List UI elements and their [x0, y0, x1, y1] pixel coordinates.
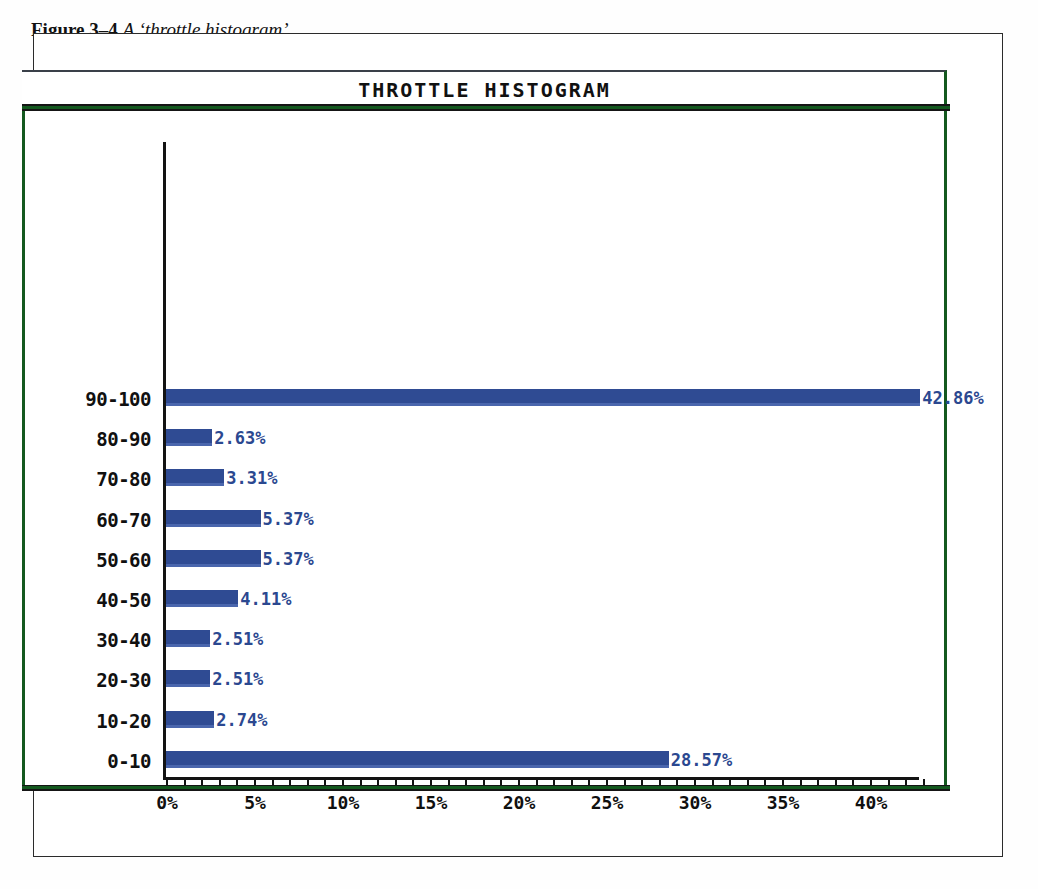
bar-value-label: 2.63% [214, 430, 265, 447]
category-label: 30-40 [1, 631, 151, 650]
bar [166, 670, 210, 687]
bar-highlight [166, 725, 214, 728]
category-label: 40-50 [1, 591, 151, 610]
figure-page: Figure 3–4A ‘throttle histogram’ THROTTL… [0, 0, 1038, 889]
category-label: 70-80 [1, 470, 151, 489]
category-label: 60-70 [1, 511, 151, 530]
bar-value-label: 3.31% [226, 470, 277, 487]
bar-highlight [166, 403, 920, 406]
x-tick-label: 5% [244, 792, 266, 813]
bar-value-label: 5.37% [263, 511, 314, 528]
bar-value-label: 4.11% [240, 591, 291, 608]
bar-highlight [166, 765, 669, 768]
bar [166, 429, 212, 446]
bar [166, 711, 214, 728]
category-label: 10-20 [1, 712, 151, 731]
bar-highlight [166, 443, 212, 446]
bar-value-label: 2.51% [212, 631, 263, 648]
x-tick-label: 35% [767, 792, 800, 813]
bar-highlight [166, 483, 224, 486]
bar-value-label: 5.37% [263, 551, 314, 568]
bar [166, 469, 224, 486]
panel-bottom-rule [22, 785, 950, 791]
bar-highlight [166, 524, 261, 527]
bottom-rule-inner [22, 786, 950, 789]
bar [166, 389, 920, 406]
x-tick-label: 25% [591, 792, 624, 813]
bar [166, 590, 238, 607]
bar [166, 630, 210, 647]
bar-value-label: 2.51% [212, 671, 263, 688]
bar [166, 550, 261, 567]
bar-highlight [166, 564, 261, 567]
bar-value-label: 42.86% [922, 390, 983, 407]
bar [166, 751, 669, 768]
x-tick-label: 30% [679, 792, 712, 813]
bar [166, 510, 261, 527]
category-label: 80-90 [1, 430, 151, 449]
plot-area: 90-10042.86%80-902.63%70-803.31%60-705.3… [0, 0, 1038, 889]
category-label: 90-100 [1, 390, 151, 409]
bar-highlight [166, 644, 210, 647]
bar-value-label: 2.74% [216, 712, 267, 729]
bar-highlight [166, 604, 238, 607]
x-tick-label: 0% [156, 792, 178, 813]
x-tick-label: 20% [503, 792, 536, 813]
x-axis-line [163, 777, 919, 780]
x-tick-label: 10% [327, 792, 360, 813]
x-tick-label: 15% [415, 792, 448, 813]
bar-highlight [166, 684, 210, 687]
x-tick-label: 40% [855, 792, 888, 813]
category-label: 50-60 [1, 551, 151, 570]
category-label: 20-30 [1, 671, 151, 690]
category-label: 0-10 [1, 752, 151, 771]
bar-value-label: 28.57% [671, 752, 732, 769]
